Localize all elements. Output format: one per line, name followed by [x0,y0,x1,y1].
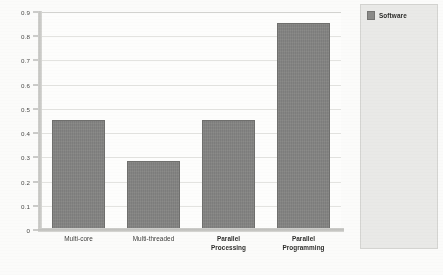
y-axis-tick-label: 0.6 [21,81,30,88]
y-axis-tick-label: 0.2 [21,178,30,185]
y-axis-tick-mark [33,157,38,158]
gridline [41,12,341,13]
y-axis-tick-mark [33,60,38,61]
plot-area [41,12,341,230]
y-axis-tick-label: 0 [26,227,30,234]
bar [52,120,105,230]
bar [277,23,330,230]
y-axis-tick-label: 0.9 [21,9,30,16]
y-axis-tick-mark [33,205,38,206]
x-axis-category-label-line: Parallel [191,234,266,243]
y-axis-tick-labels: 00.10.20.30.40.50.60.70.80.9 [0,0,41,275]
bar-texture [53,121,104,229]
bar-texture [278,24,329,229]
y-axis-tick-label: 0.1 [21,202,30,209]
legend-entry-software: Software [367,11,407,20]
bar-texture [203,121,254,229]
x-axis-category-labels: Multi-coreMulti-threadedParallelProcessi… [41,234,341,268]
y-axis-tick-mark [33,84,38,85]
y-axis-tick-label: 0.7 [21,57,30,64]
bar-texture [128,162,179,229]
y-axis-tick-label: 0.8 [21,33,30,40]
legend-label: Software [379,12,407,19]
x-axis-category-label: Multi-core [41,234,116,243]
x-axis-category-label-line: Processing [191,243,266,252]
y-axis-tick-mark [33,181,38,182]
y-axis-tick-mark [33,133,38,134]
y-axis-tick-mark [33,108,38,109]
legend-swatch-icon [367,11,375,20]
x-axis-category-label: Multi-threaded [116,234,191,243]
y-axis-tick-mark [33,12,38,13]
bar [202,120,255,230]
bar [127,161,180,230]
x-axis-category-label-line: Programming [266,243,341,252]
x-axis-category-label: ParallelProcessing [191,234,266,252]
y-axis-tick-mark [33,36,38,37]
x-axis-category-label-line: Multi-core [41,234,116,243]
x-axis-line [38,228,344,232]
x-axis-category-label-line: Multi-threaded [116,234,191,243]
x-axis-category-label: ParallelProgramming [266,234,341,252]
y-axis-tick-label: 0.3 [21,154,30,161]
bar-chart-screenshot: 00.10.20.30.40.50.60.70.80.9 Multi-coreM… [0,0,443,275]
y-axis-tick-label: 0.5 [21,105,30,112]
y-axis-tick-label: 0.4 [21,130,30,137]
y-axis-tick-mark [33,230,38,231]
x-axis-category-label-line: Parallel [266,234,341,243]
chart-panel: 00.10.20.30.40.50.60.70.80.9 Multi-coreM… [0,0,352,275]
legend-panel: Software [360,4,438,249]
